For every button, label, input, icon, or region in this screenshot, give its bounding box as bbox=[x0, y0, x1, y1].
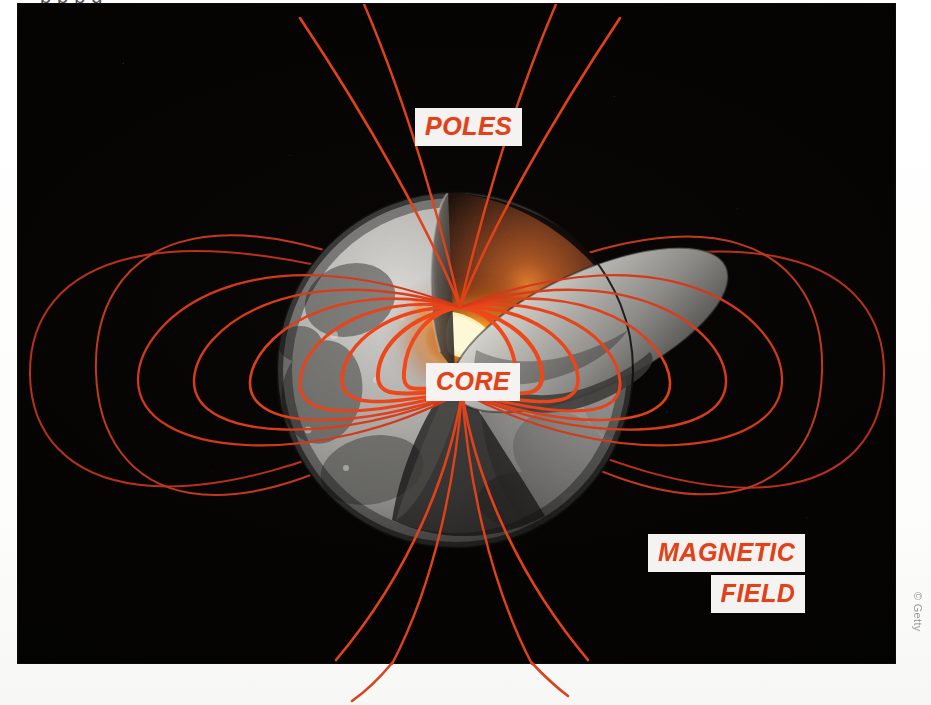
callout-magnetic-line2: FIELD bbox=[711, 575, 806, 613]
image-credit: © Getty bbox=[912, 592, 926, 662]
callout-poles: POLES bbox=[415, 108, 522, 146]
credit-text: © Getty bbox=[912, 592, 924, 606]
callout-magnetic-line1: MAGNETIC bbox=[648, 534, 805, 572]
callout-core: CORE bbox=[426, 363, 520, 401]
callout-magnetic-field: MAGNETIC FIELD bbox=[648, 534, 805, 613]
